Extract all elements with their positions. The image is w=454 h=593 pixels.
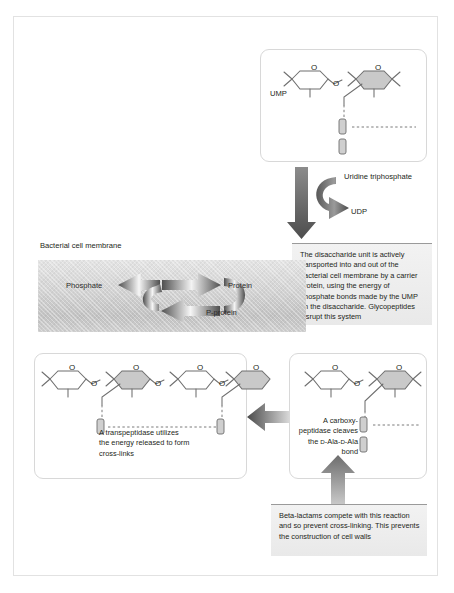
- ring-oxygen-1: O: [69, 363, 75, 372]
- ring-oxygen-left: O: [332, 363, 338, 372]
- ring-oxygen-2: O: [133, 363, 139, 372]
- transpeptidase-caption-line3: cross-links: [99, 449, 224, 459]
- caption-the: the: [308, 437, 320, 446]
- glycosidic-oxygen: O: [354, 379, 360, 388]
- membrane-label: Bacterial cell membrane: [40, 241, 121, 250]
- membrane-transport-cycle: [38, 260, 306, 332]
- caption-ala-2: -Ala: [345, 437, 358, 446]
- glycosidic-oxygen-3: O: [219, 379, 225, 388]
- right-to-left-arrow: [247, 403, 291, 431]
- carboxypeptidase-caption: A carboxy- peptidase cleaves the D-Ala-D…: [295, 416, 358, 458]
- carboxypeptidase-caption-line1: A carboxy-: [295, 416, 358, 426]
- caption-ala-1: -Ala-: [325, 437, 341, 446]
- carboxypeptidase-caption-line2: peptidase cleaves: [295, 426, 358, 436]
- betalactam-note: Beta-lactams compete with this reaction …: [271, 504, 427, 556]
- phosphate-label: Phosphate: [66, 281, 102, 290]
- utp-to-udp-curved-arrow: [316, 177, 349, 219]
- udp-label: UDP: [351, 207, 367, 216]
- protein-arrow: [162, 273, 221, 297]
- transpeptidase-caption: A transpeptidase utilizes the energy rel…: [99, 428, 224, 459]
- cross-linked-peptidoglycan-structure: O O O O O O O: [38, 357, 244, 477]
- p-protein-label: P-protein: [206, 308, 237, 317]
- transport-note: The disaccharide unit is actively transp…: [292, 243, 432, 325]
- glycosidic-oxygen-2: O: [155, 379, 161, 388]
- ring-oxygen-4: O: [253, 363, 259, 372]
- transpeptidase-caption-line2: the energy released to form: [99, 438, 224, 448]
- figure-frame: O O O UMP: [13, 16, 438, 576]
- glycosidic-oxygen-1: O: [91, 379, 97, 388]
- peptide-residue-blocks: [339, 119, 346, 154]
- ring-oxygen-left: O: [311, 63, 317, 72]
- transpeptidase-caption-line1: A transpeptidase utilizes: [99, 428, 224, 438]
- ump-label: UMP: [270, 89, 287, 98]
- protein-label: Protein: [228, 281, 252, 290]
- carboxypeptidase-caption-line3: the D-Ala-D-Ala: [295, 437, 358, 448]
- ring-oxygen-3: O: [197, 363, 203, 372]
- ump-disaccharide-structure: O O O: [264, 53, 426, 161]
- ring-oxygen-right: O: [375, 63, 381, 72]
- ring-oxygen-right: O: [396, 363, 402, 372]
- uridine-triphosphate-label: Uridine triphosphate: [344, 172, 412, 181]
- d-ala-residue-1: [360, 417, 367, 432]
- down-arrow-to-membrane: [287, 167, 316, 239]
- glycosidic-oxygen: O: [333, 79, 339, 88]
- d-ala-residue-2: [360, 437, 367, 452]
